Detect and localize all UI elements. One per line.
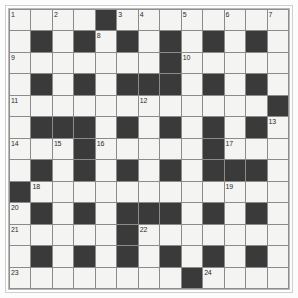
grid-cell[interactable] bbox=[96, 203, 116, 223]
grid-cell[interactable] bbox=[117, 268, 137, 288]
grid-cell[interactable] bbox=[96, 182, 116, 202]
grid-cell[interactable] bbox=[96, 268, 116, 288]
grid-cell[interactable] bbox=[10, 246, 30, 266]
grid-cell[interactable] bbox=[225, 203, 245, 223]
grid-cell[interactable] bbox=[96, 246, 116, 266]
grid-cell[interactable] bbox=[10, 160, 30, 180]
grid-cell[interactable] bbox=[225, 268, 245, 288]
grid-cell[interactable]: 18 bbox=[31, 182, 51, 202]
grid-cell[interactable]: 10 bbox=[182, 53, 202, 73]
grid-cell[interactable] bbox=[182, 246, 202, 266]
grid-cell[interactable] bbox=[160, 139, 180, 159]
grid-cell[interactable] bbox=[96, 225, 116, 245]
grid-cell[interactable] bbox=[160, 225, 180, 245]
grid-cell[interactable] bbox=[268, 160, 288, 180]
grid-cell[interactable] bbox=[31, 139, 51, 159]
grid-cell[interactable] bbox=[225, 246, 245, 266]
grid-cell[interactable] bbox=[139, 117, 159, 137]
grid-cell[interactable] bbox=[74, 10, 94, 30]
grid-cell[interactable] bbox=[96, 74, 116, 94]
grid-cell[interactable] bbox=[31, 10, 51, 30]
grid-cell[interactable]: 6 bbox=[225, 10, 245, 30]
grid-cell[interactable] bbox=[139, 31, 159, 51]
grid-cell[interactable]: 12 bbox=[139, 96, 159, 116]
grid-cell[interactable]: 19 bbox=[225, 182, 245, 202]
grid-cell[interactable] bbox=[53, 182, 73, 202]
grid-cell[interactable] bbox=[74, 268, 94, 288]
grid-cell[interactable] bbox=[225, 96, 245, 116]
grid-cell[interactable]: 13 bbox=[268, 117, 288, 137]
grid-cell[interactable] bbox=[182, 117, 202, 137]
grid-cell[interactable]: 7 bbox=[268, 10, 288, 30]
grid-cell[interactable] bbox=[225, 225, 245, 245]
grid-cell[interactable] bbox=[160, 96, 180, 116]
grid-cell[interactable] bbox=[139, 139, 159, 159]
grid-cell[interactable] bbox=[182, 31, 202, 51]
grid-cell[interactable] bbox=[246, 96, 266, 116]
grid-cell[interactable]: 15 bbox=[53, 139, 73, 159]
grid-cell[interactable] bbox=[246, 225, 266, 245]
grid-cell[interactable] bbox=[96, 117, 116, 137]
grid-cell[interactable] bbox=[268, 31, 288, 51]
grid-cell[interactable] bbox=[182, 160, 202, 180]
grid-cell[interactable]: 11 bbox=[10, 96, 30, 116]
grid-cell[interactable] bbox=[182, 182, 202, 202]
grid-cell[interactable] bbox=[139, 246, 159, 266]
grid-cell[interactable] bbox=[53, 268, 73, 288]
grid-cell[interactable] bbox=[53, 246, 73, 266]
grid-cell[interactable] bbox=[160, 10, 180, 30]
grid-cell[interactable] bbox=[246, 139, 266, 159]
grid-cell[interactable] bbox=[182, 203, 202, 223]
grid-cell[interactable] bbox=[53, 225, 73, 245]
grid-cell[interactable] bbox=[246, 182, 266, 202]
grid-cell[interactable] bbox=[31, 53, 51, 73]
grid-cell[interactable]: 9 bbox=[10, 53, 30, 73]
grid-cell[interactable] bbox=[268, 53, 288, 73]
grid-cell[interactable] bbox=[246, 10, 266, 30]
grid-cell[interactable] bbox=[117, 139, 137, 159]
grid-cell[interactable] bbox=[182, 225, 202, 245]
grid-cell[interactable] bbox=[225, 74, 245, 94]
grid-cell[interactable]: 8 bbox=[96, 31, 116, 51]
grid-cell[interactable] bbox=[74, 53, 94, 73]
grid-cell[interactable]: 21 bbox=[10, 225, 30, 245]
grid-cell[interactable] bbox=[225, 117, 245, 137]
grid-cell[interactable] bbox=[203, 182, 223, 202]
grid-cell[interactable] bbox=[225, 31, 245, 51]
grid-cell[interactable] bbox=[139, 160, 159, 180]
grid-cell[interactable]: 22 bbox=[139, 225, 159, 245]
grid-cell[interactable] bbox=[268, 203, 288, 223]
grid-cell[interactable] bbox=[74, 225, 94, 245]
grid-cell[interactable] bbox=[203, 96, 223, 116]
grid-cell[interactable]: 16 bbox=[96, 139, 116, 159]
crossword-grid[interactable]: 123456789101112131415161718192021222324 bbox=[10, 10, 288, 288]
grid-cell[interactable] bbox=[203, 10, 223, 30]
grid-cell[interactable] bbox=[268, 246, 288, 266]
grid-cell[interactable] bbox=[203, 225, 223, 245]
grid-cell[interactable] bbox=[182, 96, 202, 116]
grid-cell[interactable] bbox=[53, 160, 73, 180]
grid-cell[interactable] bbox=[268, 225, 288, 245]
grid-cell[interactable]: 4 bbox=[139, 10, 159, 30]
grid-cell[interactable] bbox=[53, 96, 73, 116]
grid-cell[interactable] bbox=[53, 203, 73, 223]
grid-cell[interactable] bbox=[160, 182, 180, 202]
grid-cell[interactable] bbox=[10, 31, 30, 51]
grid-cell[interactable] bbox=[268, 139, 288, 159]
grid-cell[interactable] bbox=[74, 182, 94, 202]
grid-cell[interactable] bbox=[268, 182, 288, 202]
grid-cell[interactable] bbox=[203, 53, 223, 73]
grid-cell[interactable]: 2 bbox=[53, 10, 73, 30]
grid-cell[interactable] bbox=[225, 53, 245, 73]
grid-cell[interactable]: 1 bbox=[10, 10, 30, 30]
grid-cell[interactable] bbox=[31, 225, 51, 245]
grid-cell[interactable]: 24 bbox=[203, 268, 223, 288]
grid-cell[interactable] bbox=[268, 268, 288, 288]
grid-cell[interactable] bbox=[117, 182, 137, 202]
grid-cell[interactable]: 20 bbox=[10, 203, 30, 223]
grid-cell[interactable] bbox=[31, 268, 51, 288]
grid-cell[interactable] bbox=[117, 53, 137, 73]
grid-cell[interactable] bbox=[139, 182, 159, 202]
grid-cell[interactable] bbox=[96, 160, 116, 180]
grid-cell[interactable] bbox=[10, 117, 30, 137]
